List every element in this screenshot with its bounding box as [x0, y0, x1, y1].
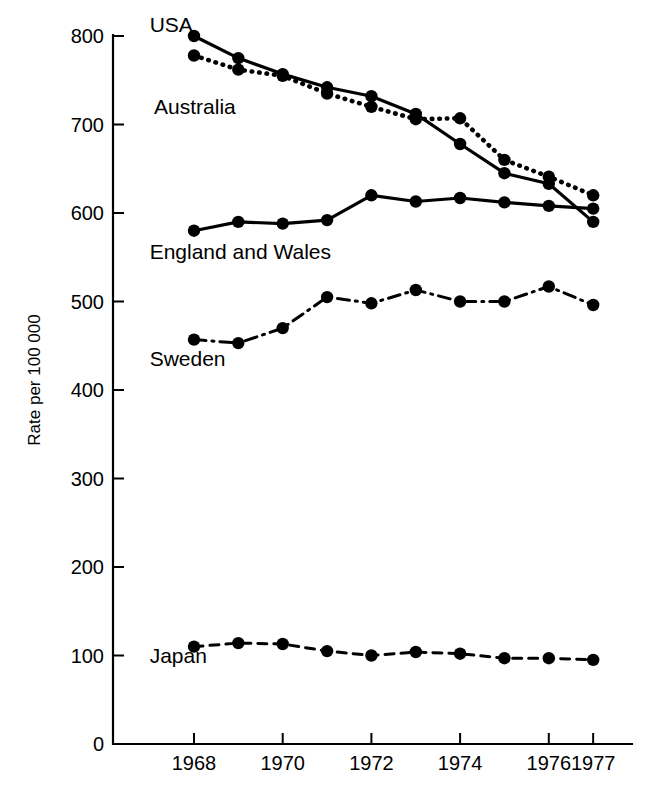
data-point-usa-1974: [454, 138, 466, 150]
series-label-usa: USA: [150, 13, 193, 36]
y-tick-label-600: 600: [71, 202, 104, 224]
data-point-japan-1972: [365, 649, 377, 661]
data-point-japan-1973: [410, 646, 422, 658]
data-point-usa-1969: [232, 52, 244, 64]
x-tick-label-1968: 1968: [172, 752, 217, 774]
y-tick-label-0: 0: [93, 733, 104, 755]
data-point-australia-1973: [410, 113, 422, 125]
y-tick-label-500: 500: [71, 291, 104, 313]
data-point-japan-1970: [277, 638, 289, 650]
data-point-australia-1969: [232, 63, 244, 75]
data-point-sweden-1974: [454, 295, 466, 307]
series-line-japan: [194, 643, 593, 660]
data-point-australia-1977: [587, 189, 599, 201]
data-point-japan-1969: [232, 637, 244, 649]
data-point-australia-1968: [188, 49, 200, 61]
y-tick-label-200: 200: [71, 556, 104, 578]
data-point-england-and-wales-1974: [454, 192, 466, 204]
data-point-australia-1974: [454, 112, 466, 124]
x-tick-label-1977: 1977: [571, 752, 616, 774]
data-point-england-and-wales-1971: [321, 214, 333, 226]
data-point-sweden-1971: [321, 291, 333, 303]
data-point-australia-1976: [543, 171, 555, 183]
chart-axes: 0100200300400500600700800Rate per 100 00…: [25, 25, 632, 774]
data-point-sweden-1969: [232, 337, 244, 349]
data-point-australia-1971: [321, 87, 333, 99]
y-tick-label-800: 800: [71, 25, 104, 47]
data-point-england-and-wales-1973: [410, 195, 422, 207]
data-point-usa-1977: [587, 216, 599, 228]
y-tick-label-400: 400: [71, 379, 104, 401]
data-point-england-and-wales-1968: [188, 225, 200, 237]
data-point-sweden-1970: [277, 322, 289, 334]
y-tick-label-300: 300: [71, 468, 104, 490]
series-label-australia: Australia: [154, 95, 236, 118]
series-line-usa: [194, 36, 593, 222]
data-point-sweden-1975: [498, 295, 510, 307]
data-point-australia-1975: [498, 154, 510, 166]
data-point-australia-1972: [365, 101, 377, 113]
series-line-australia: [194, 56, 593, 196]
data-point-england-and-wales-1977: [587, 202, 599, 214]
data-point-usa-1972: [365, 90, 377, 102]
data-point-england-and-wales-1976: [543, 200, 555, 212]
series-label-japan: Japan: [150, 644, 207, 667]
x-tick-label-1974: 1974: [438, 752, 483, 774]
data-point-usa-1975: [498, 167, 510, 179]
data-point-sweden-1973: [410, 284, 422, 296]
data-point-japan-1971: [321, 645, 333, 657]
data-point-england-and-wales-1975: [498, 196, 510, 208]
series-label-england-and-wales: England and Wales: [150, 240, 331, 263]
x-tick-label-1976: 1976: [527, 752, 572, 774]
y-tick-label-700: 700: [71, 114, 104, 136]
data-point-sweden-1976: [543, 280, 555, 292]
data-point-australia-1970: [277, 70, 289, 82]
line-chart: 0100200300400500600700800Rate per 100 00…: [0, 0, 662, 792]
y-tick-label-100: 100: [71, 645, 104, 667]
data-point-japan-1976: [543, 652, 555, 664]
data-point-japan-1975: [498, 652, 510, 664]
chart-series: [188, 30, 600, 666]
data-point-japan-1977: [587, 654, 599, 666]
x-tick-label-1972: 1972: [349, 752, 394, 774]
series-line-england-and-wales: [194, 195, 593, 230]
y-axis-title: Rate per 100 000: [25, 314, 44, 445]
data-point-sweden-1977: [587, 299, 599, 311]
axis-lines: [113, 35, 632, 744]
series-line-sweden: [194, 287, 593, 344]
data-point-japan-1974: [454, 648, 466, 660]
series-label-sweden: Sweden: [150, 347, 226, 370]
chart-container: 0100200300400500600700800Rate per 100 00…: [0, 0, 662, 792]
data-point-england-and-wales-1972: [365, 189, 377, 201]
data-point-england-and-wales-1969: [232, 216, 244, 228]
data-point-sweden-1968: [188, 333, 200, 345]
data-point-sweden-1972: [365, 297, 377, 309]
data-point-england-and-wales-1970: [277, 217, 289, 229]
x-tick-label-1970: 1970: [260, 752, 305, 774]
